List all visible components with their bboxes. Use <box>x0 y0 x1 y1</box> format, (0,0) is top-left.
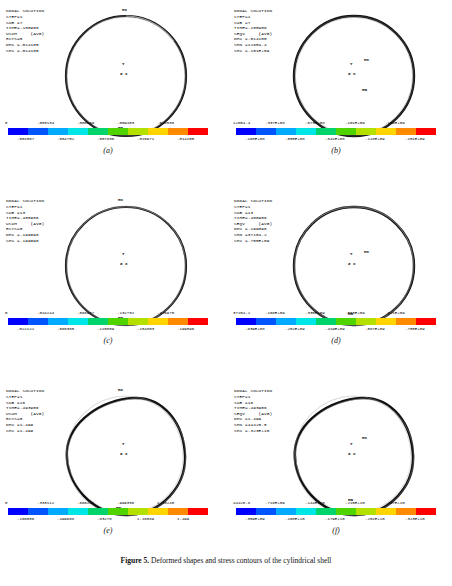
colorbar-segment <box>296 318 316 325</box>
colorbar-segment <box>316 128 336 135</box>
colorbar-tick-label: .199096 <box>177 327 194 331</box>
colorbar-tick-label: .587E+09 <box>365 327 385 331</box>
colorbar-segment <box>356 318 376 325</box>
panel-e-mark-mx: MX <box>118 388 123 392</box>
colorbar-tick-label: .012538 <box>157 121 174 125</box>
colorbar-segment <box>168 318 188 325</box>
colorbar-segment <box>376 318 396 325</box>
colorbar-segment <box>128 128 148 135</box>
panel-b-caption: (b) <box>228 146 444 155</box>
panel-a-mark-mx: MX <box>122 8 127 12</box>
panel-a: NODAL SOLUTION STEP=1 SUB =7 TIME=.10890… <box>0 0 216 178</box>
colorbar-segment <box>108 128 128 135</box>
figure-caption-label: Figure 5. <box>121 556 150 565</box>
colorbar-tick-label: .718E+09 <box>265 501 285 505</box>
colorbar-tick-label: .110609 <box>97 327 114 331</box>
colorbar-segment <box>48 318 68 325</box>
colorbar-tick-label: .009403 <box>117 121 134 125</box>
colorbar-segment <box>296 128 316 135</box>
panel-f-colorbar <box>236 508 436 515</box>
colorbar-tick-label: 0 <box>5 501 7 505</box>
panel-c-axis-label: Z X <box>120 262 128 266</box>
colorbar-segment <box>28 128 48 135</box>
colorbar-segment <box>276 128 296 135</box>
panel-b-colorbar <box>236 128 436 135</box>
colorbar-segment <box>396 318 416 325</box>
panel-e-axis-label: Z X <box>120 452 128 456</box>
colorbar-tick-label: .419E+09 <box>325 327 345 331</box>
colorbar-segment <box>336 128 356 135</box>
colorbar-segment <box>416 128 436 135</box>
colorbar-tick-label: .215E+10 <box>345 501 365 505</box>
colorbar-tick-label: .323E+10 <box>405 517 425 521</box>
colorbar-segment <box>128 508 148 515</box>
colorbar-tick-label: .003134 <box>37 121 54 125</box>
colorbar-segment <box>68 508 88 515</box>
colorbar-tick-label: 37154.2 <box>233 311 250 315</box>
colorbar-tick-label: .999336 <box>117 501 134 505</box>
panel-d-caption: (d) <box>228 336 444 345</box>
colorbar-tick-label: .505E+08 <box>285 137 305 141</box>
colorbar-tick-label: .132731 <box>117 311 134 315</box>
colorbar-tick-label: 0 <box>5 311 7 315</box>
figure-page: NODAL SOLUTION STEP=1 SUB =7 TIME=.10890… <box>0 0 452 586</box>
colorbar-tick-label: .673E+08 <box>305 121 325 125</box>
colorbar-segment <box>148 128 168 135</box>
panel-a-colorbar <box>8 128 208 135</box>
panel-c-caption: (c) <box>0 336 216 345</box>
colorbar-segment <box>28 508 48 515</box>
colorbar-segment <box>236 128 256 135</box>
panel-c-mark-mx: MX <box>118 198 123 202</box>
colorbar-segment <box>296 508 316 515</box>
colorbar-segment <box>188 318 208 325</box>
colorbar-tick-label: .007836 <box>97 137 114 141</box>
colorbar-tick-label: .755E+09 <box>405 327 425 331</box>
colorbar-tick-label: .83278 <box>97 517 112 521</box>
panel-e: NODAL SOLUTION STEP=1 SUB =16 TIME=.4939… <box>0 380 216 558</box>
colorbar-tick-label: .001567 <box>17 137 34 141</box>
colorbar-tick-label: .179E+10 <box>325 517 345 521</box>
colorbar-tick-label: .671E+09 <box>385 311 405 315</box>
colorbar-tick-label: .044244 <box>37 311 54 315</box>
colorbar-segment <box>168 128 188 135</box>
colorbar-segment <box>68 318 88 325</box>
colorbar-tick-label: .118E+09 <box>365 137 385 141</box>
panel-b-axis-label: Z X <box>348 72 356 76</box>
colorbar-segment <box>8 318 28 325</box>
panel-b: NODAL SOLUTION STEP=1 SUB =7 TIME=.10890… <box>228 0 444 178</box>
colorbar-segment <box>68 128 88 135</box>
colorbar-segment <box>256 318 276 325</box>
colorbar-segment <box>416 508 436 515</box>
colorbar-segment <box>236 318 256 325</box>
colorbar-segment <box>336 318 356 325</box>
panel-f-mark-mx: MX <box>362 436 367 440</box>
panel-c: NODAL SOLUTION STEP=1 SUB =13 TIME=.4089… <box>0 190 216 368</box>
colorbar-segment <box>88 508 108 515</box>
colorbar-tick-label: 44425.8 <box>233 501 250 505</box>
colorbar-segment <box>276 508 296 515</box>
colorbar-segment <box>108 508 128 515</box>
colorbar-tick-label: .337E+08 <box>265 121 285 125</box>
colorbar-segment <box>188 128 208 135</box>
panel-e-axis-y: Y <box>122 442 125 446</box>
panel-f-axis-label: Z X <box>348 452 356 456</box>
colorbar-segment <box>236 508 256 515</box>
colorbar-segment <box>316 318 336 325</box>
colorbar-segment <box>396 508 416 515</box>
colorbar-segment <box>256 508 276 515</box>
colorbar-tick-label: .287E+10 <box>385 501 405 505</box>
colorbar-tick-label: .101E+09 <box>345 121 365 125</box>
colorbar-tick-label: .088487 <box>77 311 94 315</box>
panel-d-mark-mx: MX <box>364 250 369 254</box>
panel-e-colorbar <box>8 508 208 515</box>
colorbar-tick-label: .839E+08 <box>245 327 265 331</box>
colorbar-tick-label: .134E+09 <box>385 121 405 125</box>
colorbar-segment <box>376 128 396 135</box>
colorbar-segment <box>376 508 396 515</box>
colorbar-segment <box>316 508 336 515</box>
colorbar-tick-label: .359E+09 <box>245 517 265 521</box>
panel-b-axis-y: Y <box>350 62 353 66</box>
panel-a-caption: (a) <box>0 146 216 155</box>
colorbar-segment <box>28 318 48 325</box>
colorbar-tick-label: .503E+09 <box>345 311 365 315</box>
